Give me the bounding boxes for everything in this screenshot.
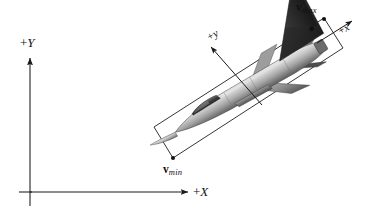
diagram-canvas: +Y +X +y +x vmax vmin [0,0,379,210]
v-max-label: vmax [296,2,317,14]
world-y-axis-letter: Y [27,35,34,50]
v-max-point-marker [322,17,326,21]
bounding-box-diagram-svg [0,0,379,210]
world-x-axis-label: +X [193,185,208,198]
v-min-point-marker [171,156,175,160]
v-min-subscript: min [169,167,183,177]
fuselage [170,39,325,140]
world-axes-group [19,58,188,206]
world-x-axis-letter: X [200,184,208,199]
world-y-axis-label: +Y [20,36,35,49]
v-max-subscript: max [302,5,317,15]
nose-cone [150,131,177,150]
v-min-label: vmin [163,164,182,176]
aircraft-figure [119,0,344,169]
